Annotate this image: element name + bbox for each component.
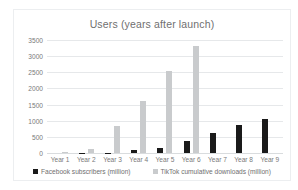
legend-swatch-icon-tiktok [153,169,158,174]
x-axis-category-labels: Year 1Year 2Year 3Year 4Year 5Year 6Year… [47,156,283,163]
legend-item-tiktok[interactable]: TikTok cumulative downloads (million) [153,168,271,175]
legend-swatch-icon-facebook [33,169,38,174]
y-tick-label-2000: 2000 [28,85,43,92]
bar-facebook [184,141,190,153]
y-tick-label-3000: 3000 [28,53,43,60]
plot-area: 0500100015002000250030003500 [47,40,283,153]
bar-facebook [157,148,163,153]
legend-label: TikTok cumulative downloads (million) [161,168,271,175]
bar-group [99,40,125,153]
x-axis-label: Year 8 [231,156,257,163]
bar-group [204,40,230,153]
gridline-0 [47,153,283,154]
y-tick-label-3500: 3500 [28,37,43,44]
x-axis-label: Year 1 [47,156,73,163]
x-axis-label: Year 5 [152,156,178,163]
y-tick-label-1000: 1000 [28,117,43,124]
bar-group [152,40,178,153]
y-tick-label-1500: 1500 [28,101,43,108]
bar-tiktok [88,149,94,153]
legend-label: Facebook subscribers (million) [41,168,130,175]
legend-item-facebook[interactable]: Facebook subscribers (million) [33,168,130,175]
x-axis-label: Year 7 [204,156,230,163]
bar-tiktok [140,101,146,153]
bar-group [47,40,73,153]
bar-group [231,40,257,153]
y-tick-label-2500: 2500 [28,69,43,76]
x-axis-label: Year 3 [99,156,125,163]
y-tick-label-0: 0 [39,150,43,157]
bar-facebook [131,150,137,153]
bar-group [126,40,152,153]
bar-tiktok [193,46,199,153]
x-axis-label: Year 4 [126,156,152,163]
bar-facebook [236,125,242,153]
chart-card: Users (years after launch) 0500100015002… [13,9,291,181]
x-axis-label: Year 6 [178,156,204,163]
chart-title: Users (years after launch) [14,18,290,30]
bar-facebook [262,119,268,153]
bar-group [178,40,204,153]
y-tick-label-500: 500 [32,133,43,140]
bar-group [73,40,99,153]
bar-facebook [210,133,216,153]
bar-series-container [47,40,283,153]
bar-tiktok [62,152,68,153]
x-axis-label: Year 2 [73,156,99,163]
bar-group [257,40,283,153]
bar-tiktok [114,126,120,153]
x-axis-label: Year 9 [257,156,283,163]
chart-legend: Facebook subscribers (million)TikTok cum… [14,168,290,175]
bar-tiktok [166,71,172,153]
